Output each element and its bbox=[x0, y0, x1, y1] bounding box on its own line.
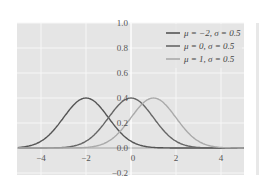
y-tick-label: 0.4 bbox=[117, 93, 129, 103]
legend: μ = −2, σ = 0.5μ = 0, σ = 0.5μ = 1, σ = … bbox=[162, 24, 242, 68]
y-tick-label: 0.0 bbox=[117, 143, 129, 153]
x-tick-label: −2 bbox=[81, 153, 91, 163]
x-tick-label: 2 bbox=[174, 153, 179, 163]
second-panel bbox=[256, 23, 259, 175]
legend-label: μ = −2, σ = 0.5 bbox=[183, 28, 241, 38]
legend-label: μ = 0, σ = 0.5 bbox=[183, 41, 235, 51]
chart: −4−2024−0.20.00.20.40.60.81.0 μ = −2, σ … bbox=[0, 0, 259, 191]
y-tick-label: −0.2 bbox=[112, 168, 128, 178]
y-tick-label: 0.6 bbox=[117, 68, 129, 78]
x-tick-label: −4 bbox=[36, 153, 46, 163]
y-tick-label: 0.8 bbox=[117, 43, 129, 53]
legend-label: μ = 1, σ = 0.5 bbox=[183, 54, 235, 64]
x-tick-label: 4 bbox=[219, 153, 224, 163]
x-tick-label: 0 bbox=[131, 153, 136, 163]
y-tick-label: 0.2 bbox=[117, 118, 128, 128]
y-tick-label: 1.0 bbox=[117, 18, 129, 28]
